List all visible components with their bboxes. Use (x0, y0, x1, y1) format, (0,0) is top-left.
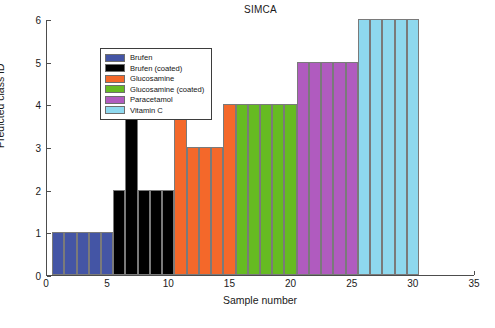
bar (395, 19, 407, 275)
x-tick-mark (46, 271, 47, 275)
y-tick-mark (47, 63, 51, 64)
x-tick-label: 20 (285, 278, 296, 289)
y-tick-mark (47, 148, 51, 149)
x-tick-label: 0 (43, 278, 49, 289)
x-tick-label: 10 (163, 278, 174, 289)
bar (236, 104, 248, 275)
x-tick-label: 30 (407, 278, 418, 289)
legend-swatch-icon (105, 106, 125, 114)
bar (346, 62, 358, 275)
bar (297, 62, 309, 275)
legend-swatch-icon (105, 75, 125, 83)
y-tick-mark (47, 105, 51, 106)
x-tick-label: 25 (346, 278, 357, 289)
plot-area: 0123456 05101520253035 BrufenBrufen (coa… (46, 20, 474, 276)
x-axis-label: Sample number (46, 294, 474, 306)
y-tick-mark (47, 20, 51, 21)
y-tick-mark (47, 276, 51, 277)
bar (187, 147, 199, 275)
legend-swatch-icon (105, 85, 125, 93)
bar (174, 104, 186, 275)
bar (321, 62, 333, 275)
legend: BrufenBrufen (coated)GlucosamineGlucosam… (100, 48, 212, 120)
legend-label: Glucosamine (130, 74, 174, 83)
bar (370, 19, 382, 275)
legend-label: Vitamin C (130, 106, 163, 115)
x-tick-label: 5 (104, 278, 110, 289)
legend-label: Brufen (coated) (130, 64, 182, 73)
y-tick-mark (47, 233, 51, 234)
legend-entry[interactable]: Glucosamine (105, 74, 207, 84)
figure-container: SIMCA 0123456 05101520253035 BrufenBrufe… (0, 0, 495, 328)
y-tick-label: 6 (35, 15, 41, 26)
x-axis-line (46, 275, 474, 276)
bar (101, 232, 113, 275)
legend-swatch-icon (105, 54, 125, 62)
x-tick-label: 15 (224, 278, 235, 289)
y-tick-label: 2 (35, 185, 41, 196)
chart-title: SIMCA (46, 4, 475, 15)
bar (223, 104, 235, 275)
legend-swatch-icon (105, 64, 125, 72)
y-tick-label: 4 (35, 100, 41, 111)
legend-swatch-icon (105, 96, 125, 104)
bar (333, 62, 345, 275)
bar (138, 190, 150, 275)
y-tick-mark (47, 191, 51, 192)
x-tick-label: 35 (468, 278, 479, 289)
legend-label: Paracetamol (130, 95, 173, 104)
bar (382, 19, 394, 275)
y-tick-label: 5 (35, 57, 41, 68)
bar (52, 232, 64, 275)
bar (113, 190, 125, 275)
bar (309, 62, 321, 275)
y-tick-label: 1 (35, 228, 41, 239)
bar (162, 190, 174, 275)
bar (211, 147, 223, 275)
legend-entry[interactable]: Brufen (coated) (105, 63, 207, 73)
bar (358, 19, 370, 275)
bar (125, 104, 137, 275)
bar (64, 232, 76, 275)
legend-entry[interactable]: Paracetamol (105, 95, 207, 105)
bar (199, 147, 211, 275)
bar (248, 104, 260, 275)
bar (89, 232, 101, 275)
legend-label: Brufen (130, 53, 152, 62)
legend-entry[interactable]: Vitamin C (105, 105, 207, 115)
bar (150, 190, 162, 275)
bar (260, 104, 272, 275)
legend-entry[interactable]: Brufen (105, 53, 207, 63)
bar (284, 104, 296, 275)
y-tick-label: 3 (35, 143, 41, 154)
x-tick-mark (474, 271, 475, 275)
y-axis-label: Predicted class ID (0, 63, 6, 148)
legend-entry[interactable]: Glucosamine (coated) (105, 84, 207, 94)
y-tick-label: 0 (35, 271, 41, 282)
bar (272, 104, 284, 275)
bar (77, 232, 89, 275)
bar (407, 19, 419, 275)
legend-label: Glucosamine (coated) (130, 85, 204, 94)
